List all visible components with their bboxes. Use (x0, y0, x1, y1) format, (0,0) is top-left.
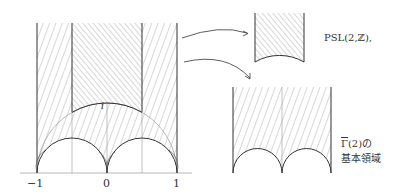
psl-caption: PSL(2,ℤ), (324, 30, 372, 45)
tick-zero: 0 (103, 177, 110, 190)
left-figure (20, 23, 192, 173)
gamma-caption-line2: 基本領域 (341, 151, 381, 166)
arrows (182, 29, 250, 79)
gamma2-caption: Γ(2)の 基本領域 (341, 136, 381, 166)
gamma-caption-rest: (2)の (348, 138, 372, 149)
psl-domain-figure (255, 13, 304, 63)
tick-minus-one: −1 (27, 177, 43, 190)
gamma-symbol: Γ (341, 138, 348, 149)
arrow-to-psl (182, 29, 247, 38)
gamma2-domain-figure (233, 87, 331, 173)
tick-one: 1 (173, 177, 180, 190)
arrow-to-gamma2 (184, 59, 250, 78)
point-i-label: i (101, 101, 104, 111)
